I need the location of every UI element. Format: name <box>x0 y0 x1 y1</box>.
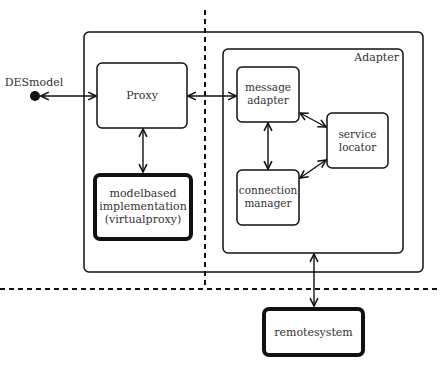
adapter-label: Adapter <box>353 51 400 64</box>
edge-message-adapter-service-locator <box>300 113 326 127</box>
modelbased-label-3: (virtualproxy) <box>105 213 182 226</box>
connection-manager-label-1: connection <box>239 184 298 196</box>
message-adapter-node: message adapter <box>237 67 299 122</box>
desmodel-label: DESmodel <box>5 76 64 89</box>
connection-manager-node: connection manager <box>237 170 299 225</box>
proxy-node: Proxy <box>97 63 187 128</box>
desmodel-dot-icon <box>30 91 40 101</box>
edge-connection-manager-service-locator <box>300 160 326 178</box>
desmodel-node: DESmodel <box>5 76 64 101</box>
modelbased-implementation-node: modelbased implementation (virtualproxy) <box>95 175 191 239</box>
service-locator-node: service locator <box>327 113 388 168</box>
modelbased-label-1: modelbased <box>110 187 177 200</box>
architecture-diagram: Adapter DESmodel Proxy message adapter s… <box>0 0 440 372</box>
message-adapter-label-1: message <box>245 81 291 93</box>
message-adapter-label-2: adapter <box>247 94 289 106</box>
connection-manager-label-2: manager <box>244 197 292 209</box>
remotesystem-label: remotesystem <box>274 326 353 339</box>
service-locator-label-1: service <box>338 128 376 140</box>
service-locator-label-2: locator <box>339 141 377 153</box>
modelbased-label-2: implementation <box>99 200 187 213</box>
remotesystem-node: remotesystem <box>264 309 363 355</box>
proxy-label: Proxy <box>126 89 158 102</box>
